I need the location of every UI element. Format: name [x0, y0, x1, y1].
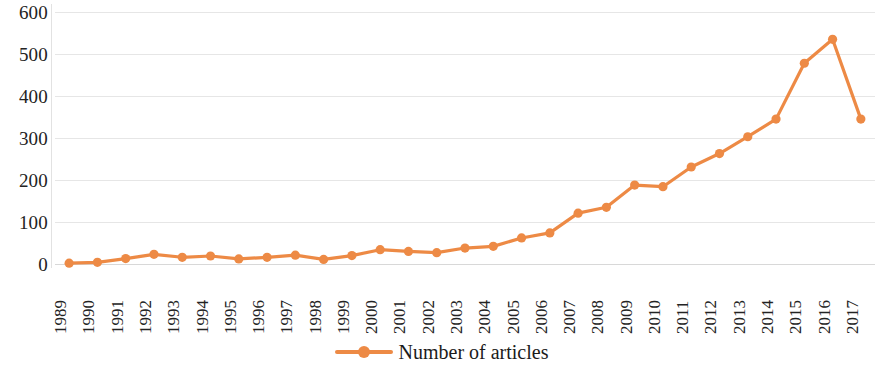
chart-legend: Number of articles [0, 338, 883, 366]
x-tick-label-2012: 2012 [702, 314, 719, 334]
data-point-1989 [65, 259, 74, 268]
data-point-2015 [800, 59, 809, 68]
legend-label-number-of-articles: Number of articles [399, 342, 549, 362]
x-tick-label-1996: 1996 [250, 314, 267, 334]
x-tick-label-2006: 2006 [533, 314, 550, 334]
data-point-1992 [149, 250, 158, 259]
x-tick-label-1992: 1992 [137, 314, 154, 334]
y-tick-label-300: 300 [0, 129, 48, 148]
data-point-2016 [828, 35, 837, 44]
x-tick-label-2009: 2009 [618, 314, 635, 334]
data-point-2002 [432, 248, 441, 257]
x-tick-label-2000: 2000 [363, 314, 380, 334]
x-tick-label-1990: 1990 [80, 314, 97, 334]
x-tick-label-2010: 2010 [646, 314, 663, 334]
y-tick-label-500: 500 [0, 45, 48, 64]
x-tick-label-2008: 2008 [589, 314, 606, 334]
data-point-2005 [517, 233, 526, 242]
line-chart: 0100200300400500600 19891990199119921993… [0, 0, 883, 376]
data-point-2004 [489, 242, 498, 251]
data-point-1990 [93, 258, 102, 267]
x-tick-label-2015: 2015 [787, 314, 804, 334]
x-tick-label-1998: 1998 [307, 314, 324, 334]
y-tick-label-100: 100 [0, 213, 48, 232]
x-tick-label-2011: 2011 [674, 314, 691, 334]
x-axis-tick-labels: 1989199019911992199319941995199619971998… [55, 268, 875, 326]
x-tick-label-2003: 2003 [448, 314, 465, 334]
data-point-1999 [347, 251, 356, 260]
x-tick-label-1991: 1991 [109, 314, 126, 334]
data-point-1998 [319, 255, 328, 264]
data-point-1996 [262, 253, 271, 262]
series-line [69, 39, 861, 263]
x-tick-label-2005: 2005 [505, 314, 522, 334]
data-point-2017 [856, 115, 865, 124]
data-point-2003 [460, 243, 469, 252]
data-point-2001 [404, 247, 413, 256]
data-point-2006 [545, 228, 554, 237]
data-point-2014 [771, 115, 780, 124]
x-tick-label-1994: 1994 [194, 314, 211, 334]
series-number-of-articles [55, 12, 875, 264]
data-point-1995 [234, 254, 243, 263]
y-tick-label-200: 200 [0, 171, 48, 190]
x-tick-label-2001: 2001 [391, 314, 408, 334]
x-tick-label-1993: 1993 [165, 314, 182, 334]
x-tick-label-2016: 2016 [816, 314, 833, 334]
y-tick-label-600: 600 [0, 3, 48, 22]
data-point-2012 [715, 149, 724, 158]
plot-area [55, 12, 875, 264]
x-tick-label-2013: 2013 [731, 314, 748, 334]
data-point-2011 [687, 162, 696, 171]
x-tick-label-2014: 2014 [759, 314, 776, 334]
y-tick-label-0: 0 [0, 255, 48, 274]
x-tick-label-1999: 1999 [335, 314, 352, 334]
x-tick-label-1995: 1995 [222, 314, 239, 334]
x-tick-label-1997: 1997 [278, 314, 295, 334]
legend-marker-icon [335, 344, 393, 360]
y-axis-line [51, 4, 52, 268]
data-point-1994 [206, 251, 215, 260]
data-point-2010 [658, 182, 667, 191]
x-tick-label-2002: 2002 [420, 314, 437, 334]
y-tick-label-400: 400 [0, 87, 48, 106]
data-point-1991 [121, 254, 130, 263]
data-point-2007 [574, 209, 583, 218]
data-point-2008 [602, 203, 611, 212]
x-tick-label-2017: 2017 [844, 314, 861, 334]
y-axis-tick-labels: 0100200300400500600 [0, 12, 48, 264]
data-point-1997 [291, 251, 300, 260]
x-tick-label-1989: 1989 [52, 314, 69, 334]
data-point-2013 [743, 132, 752, 141]
data-point-1993 [178, 253, 187, 262]
gridline-0 [55, 264, 875, 265]
data-point-2000 [376, 245, 385, 254]
x-tick-label-2007: 2007 [561, 314, 578, 334]
data-point-2009 [630, 180, 639, 189]
x-tick-label-2004: 2004 [476, 314, 493, 334]
